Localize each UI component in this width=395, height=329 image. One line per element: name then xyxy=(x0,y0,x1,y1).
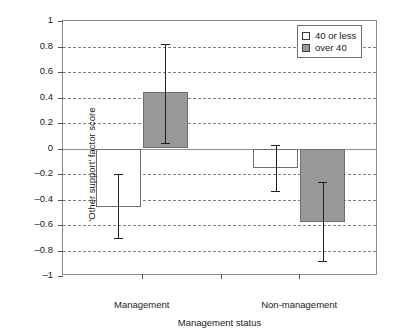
bar-chart: ManagementNon-management Management stat… xyxy=(0,0,395,329)
x-tick-mark xyxy=(142,274,143,279)
y-tick-mark xyxy=(58,225,63,226)
y-tick-label: –1 xyxy=(0,270,53,280)
y-tick-label: 0.8 xyxy=(0,41,53,51)
gridline xyxy=(63,123,376,124)
y-tick-label: 0.6 xyxy=(0,66,53,76)
error-bar-cap xyxy=(271,145,280,146)
y-tick-mark xyxy=(58,47,63,48)
y-tick-label: –0.2 xyxy=(0,168,53,178)
legend-label: 40 or less xyxy=(315,31,356,41)
y-tick-label: –0.6 xyxy=(0,219,53,229)
legend-label: over 40 xyxy=(315,43,347,53)
y-tick-mark xyxy=(58,123,63,124)
legend-item: over 40 xyxy=(302,42,356,53)
error-bar-cap xyxy=(161,143,170,144)
x-axis-title: Management status xyxy=(63,317,376,328)
legend-swatch-over-40-icon xyxy=(302,44,310,52)
error-bar-line xyxy=(118,174,119,238)
plot-area: ManagementNon-management Management stat… xyxy=(62,20,377,275)
y-tick-label: –0.4 xyxy=(0,194,53,204)
x-axis-category-label: Management xyxy=(63,300,221,310)
x-axis-category-label: Non-management xyxy=(221,300,379,310)
y-tick-label: 0 xyxy=(0,143,53,153)
gridline xyxy=(63,98,376,99)
y-tick-mark xyxy=(58,276,63,277)
x-tick-mark xyxy=(221,274,222,279)
error-bar-line xyxy=(165,44,166,143)
error-bar-cap xyxy=(318,261,327,262)
y-tick-mark xyxy=(58,200,63,201)
legend: 40 or less over 40 xyxy=(297,25,362,58)
gridline xyxy=(63,251,376,252)
error-bar-cap xyxy=(114,174,123,175)
error-bar-cap xyxy=(161,44,170,45)
legend-item: 40 or less xyxy=(302,30,356,41)
gridline xyxy=(63,72,376,73)
y-tick-mark xyxy=(58,98,63,99)
y-tick-mark xyxy=(58,72,63,73)
error-bar-cap xyxy=(271,191,280,192)
error-bar-cap xyxy=(318,182,327,183)
y-axis-title: 'Other support' factor score xyxy=(86,75,97,255)
error-bar-cap xyxy=(114,238,123,239)
y-tick-label: 1 xyxy=(0,15,53,25)
x-tick-mark xyxy=(299,274,300,279)
y-tick-mark xyxy=(58,149,63,150)
y-tick-mark xyxy=(58,21,63,22)
y-tick-label: 0.2 xyxy=(0,117,53,127)
error-bar-line xyxy=(323,182,324,261)
y-tick-label: –0.8 xyxy=(0,245,53,255)
legend-swatch-40-or-less-icon xyxy=(302,32,310,40)
error-bar-line xyxy=(276,145,277,191)
y-tick-mark xyxy=(58,251,63,252)
y-tick-label: 0.4 xyxy=(0,92,53,102)
y-tick-mark xyxy=(58,174,63,175)
gridline xyxy=(63,225,376,226)
